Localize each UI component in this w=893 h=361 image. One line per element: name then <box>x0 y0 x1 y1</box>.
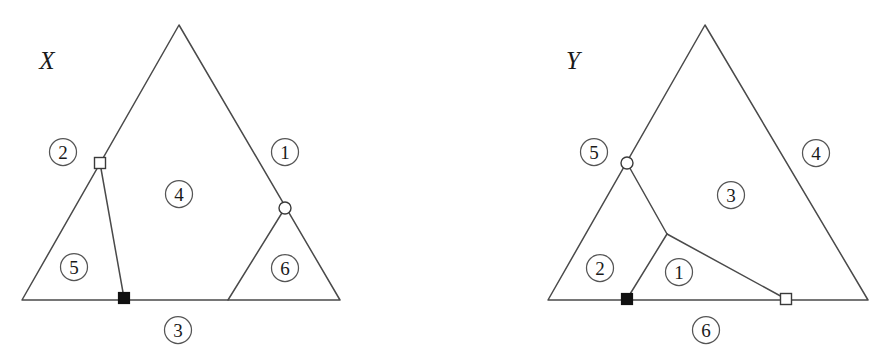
edge-junction-to-filled-square <box>627 234 667 299</box>
region-badge-4: 4 <box>166 181 193 208</box>
region-badge-3: 3 <box>718 182 745 209</box>
region-badge-label: 2 <box>58 142 68 163</box>
region-badge-label: 4 <box>174 184 184 205</box>
figure-title-y: Y <box>566 47 583 74</box>
region-badge-label: 3 <box>726 185 736 206</box>
filled-square-marker <box>119 293 130 304</box>
region-badge-label: 5 <box>589 142 599 163</box>
region-badge-label: 4 <box>811 143 821 164</box>
region-badge-5: 5 <box>581 139 608 166</box>
svg-root: X123456Y123456 <box>22 25 868 344</box>
region-badge-label: 6 <box>280 258 290 279</box>
open-circle-marker <box>279 202 291 214</box>
region-badge-6: 6 <box>272 255 299 282</box>
figure-x: X123456 <box>22 25 340 344</box>
region-badge-2: 2 <box>50 139 77 166</box>
diagram-figure-pair: X123456Y123456 <box>0 0 893 361</box>
open-square-marker <box>95 158 106 169</box>
open-circle-marker <box>621 157 633 169</box>
edge-circle-to-base <box>228 208 285 300</box>
filled-square-marker <box>622 294 633 305</box>
figure-title-x: X <box>38 47 56 74</box>
region-badge-3: 3 <box>165 317 192 344</box>
figure-y: Y123456 <box>548 25 868 344</box>
region-badge-label: 2 <box>595 258 605 279</box>
region-badge-1: 1 <box>666 259 693 286</box>
region-badge-1: 1 <box>272 139 299 166</box>
region-badge-label: 1 <box>280 142 290 163</box>
region-badge-5: 5 <box>61 254 88 281</box>
region-badge-6: 6 <box>693 317 720 344</box>
diagram-canvas: X123456Y123456 <box>0 0 893 361</box>
region-badge-label: 5 <box>69 257 79 278</box>
edge-square-to-filled-square <box>100 163 124 298</box>
open-square-marker <box>781 294 792 305</box>
region-badge-label: 1 <box>674 262 684 283</box>
region-badge-2: 2 <box>587 255 614 282</box>
edge-circle-to-junction <box>627 163 667 234</box>
region-badge-label: 3 <box>173 320 183 341</box>
region-badge-4: 4 <box>803 140 830 167</box>
region-badge-label: 6 <box>701 320 711 341</box>
